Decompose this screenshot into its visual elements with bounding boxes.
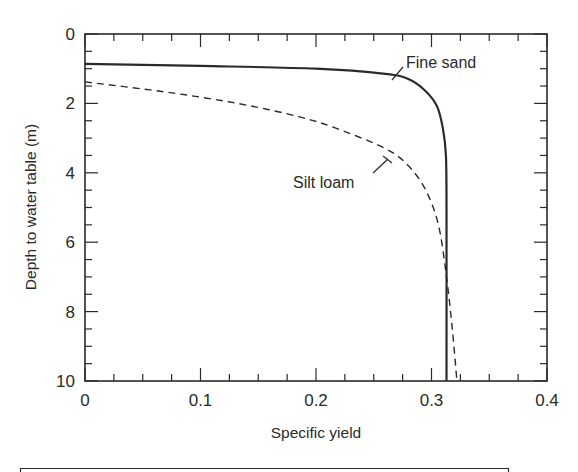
y-tick-label: 0 [66, 25, 75, 44]
axis-ticks [85, 34, 547, 381]
y-tick-label: 4 [66, 164, 75, 183]
y-tick-label: 10 [56, 372, 75, 391]
silt-loam-label: Silt loam [293, 174, 354, 191]
y-axis-title: Depth to water table (m) [22, 124, 39, 290]
x-tick-label: 0.3 [420, 391, 444, 410]
fine-sand-leader [392, 67, 403, 80]
silt-loam-leader [373, 159, 388, 173]
x-tick-label: 0.4 [535, 391, 559, 410]
x-tick-label: 0.1 [189, 391, 213, 410]
axis-tick-labels: 00.10.20.30.40246810 [56, 25, 559, 410]
chart: 00.10.20.30.40246810 Fine sand Silt loam… [0, 0, 578, 472]
silt-loam-line [85, 82, 457, 381]
y-tick-label: 8 [66, 303, 75, 322]
x-tick-label: 0 [80, 391, 89, 410]
fine-sand-label: Fine sand [406, 54, 476, 71]
fine-sand-line [85, 64, 447, 381]
caption-box-border [21, 469, 509, 472]
series-lines [85, 64, 457, 381]
x-tick-label: 0.2 [304, 391, 328, 410]
y-tick-label: 6 [66, 233, 75, 252]
y-tick-label: 2 [66, 94, 75, 113]
plot-frame [85, 34, 547, 381]
x-axis-title: Specific yield [271, 424, 361, 441]
